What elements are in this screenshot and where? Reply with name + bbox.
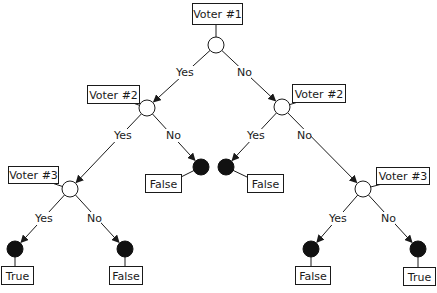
edge-label-no: No [237, 66, 252, 79]
edge-label-yes: Yes [175, 66, 194, 79]
decision-node-circle [208, 37, 224, 53]
voter-label-box: Voter #2 [293, 85, 346, 103]
voter-label-text: Voter #1 [193, 8, 242, 21]
voter-label-box: Voter #2 [88, 86, 140, 104]
outcome-label-box: False [248, 175, 284, 193]
edge-v2l-v3l [76, 114, 141, 183]
voter-label-text: Voter #2 [295, 88, 344, 101]
outcome-label-text: False [299, 270, 327, 283]
nodes-layer [7, 37, 426, 257]
edges-layer [21, 50, 412, 242]
outcome-label-box: True [2, 267, 34, 285]
voter-label-text: Voter #3 [379, 170, 428, 183]
decision-node-circle [139, 100, 155, 116]
edge-label-yes: Yes [113, 129, 132, 142]
outcome-label-box: False [146, 175, 182, 193]
outcome-node-dot [117, 241, 133, 257]
voter-label-box: Voter #3 [9, 167, 59, 184]
outcome-node-dot [303, 241, 319, 257]
outcome-label-box: False [110, 267, 143, 285]
voter-label-text: Voter #2 [89, 89, 138, 102]
outcome-label-text: False [112, 270, 140, 283]
edge-label-yes: Yes [34, 212, 53, 225]
edge-label-yes: Yes [246, 129, 265, 142]
edge-label-no: No [297, 129, 312, 142]
leader-lines-layer [15, 24, 418, 267]
edge-label-no: No [87, 212, 102, 225]
outcome-node-dot [218, 159, 234, 175]
voter-label-box: Voter #1 [193, 4, 243, 25]
outcome-node-dot [410, 241, 426, 257]
decision-node-circle [274, 99, 290, 115]
outcome-label-box: True [404, 268, 436, 286]
voter-label-text: Voter #3 [9, 169, 58, 182]
decision-node-circle [62, 181, 78, 197]
voter-label-box: Voter #3 [377, 168, 430, 185]
edge-v2r-v3r [288, 113, 357, 183]
outcome-node-dot [7, 241, 23, 257]
outcome-label-text: True [407, 271, 432, 284]
voting-decision-tree: YesNoYesNoYesNoYesNoYesNoVoter #1Voter #… [0, 0, 437, 293]
edge-label-no: No [166, 129, 181, 142]
edge-label-yes: Yes [328, 212, 347, 225]
decision-node-circle [355, 181, 371, 197]
edge-label-no: No [381, 212, 396, 225]
outcome-label-box: False [296, 267, 331, 285]
outcome-label-text: True [5, 270, 30, 283]
outcome-label-text: False [150, 178, 178, 191]
outcome-label-text: False [252, 178, 280, 191]
outcome-node-dot [193, 159, 209, 175]
